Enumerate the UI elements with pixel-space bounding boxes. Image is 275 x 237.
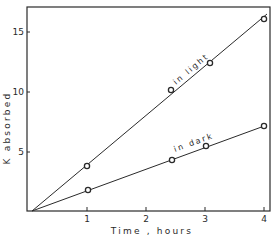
- x-tick-label-4: 4: [261, 214, 267, 224]
- chart: 5 10 15 K absorbed 1 2 3 4 Time , hours …: [0, 0, 275, 237]
- y-axis-title: K absorbed: [2, 92, 12, 165]
- light-curve-label: in light: [172, 52, 211, 87]
- light-point-3: [207, 60, 212, 65]
- y-axis: 5 10 15 K absorbed: [2, 27, 30, 164]
- y-tick-label-10: 10: [13, 87, 25, 97]
- dark-curve-label: in dark: [173, 131, 215, 154]
- plot-frame: [27, 7, 270, 211]
- x-tick-label-1: 1: [84, 214, 90, 224]
- light-point-2: [168, 87, 173, 92]
- x-tick-label-2: 2: [143, 214, 149, 224]
- y-tick-label-5: 5: [18, 147, 24, 157]
- y-tick-label-15: 15: [13, 27, 24, 37]
- series-in-light: in light: [32, 14, 267, 211]
- dark-point-3: [203, 143, 208, 148]
- dark-point-4: [261, 123, 266, 128]
- dark-point-2: [169, 157, 174, 162]
- dark-point-1: [85, 187, 90, 192]
- dark-fit-line: [32, 125, 267, 211]
- x-axis-title: Time , hours: [110, 226, 193, 236]
- light-point-1: [84, 163, 89, 168]
- series-in-dark: in dark: [32, 123, 267, 211]
- x-tick-label-3: 3: [202, 214, 208, 224]
- light-fit-line: [32, 14, 267, 211]
- light-point-4: [261, 16, 266, 21]
